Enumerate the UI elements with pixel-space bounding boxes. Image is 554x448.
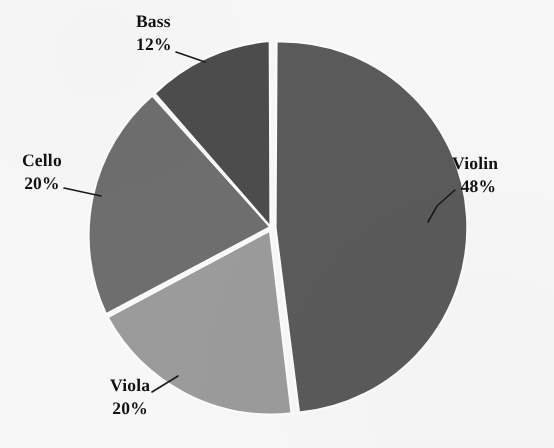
leader-line-bass (176, 52, 205, 62)
pie-label-violin-name: Violin (452, 152, 498, 175)
pie-slice-violin[interactable] (276, 41, 468, 412)
pie-label-cello-name: Cello (22, 149, 62, 172)
pie-label-viola-percent: 20% (110, 397, 150, 420)
pie-chart: Violin 48% Bass 12% Cello 20% Viola 20% (0, 0, 554, 448)
pie-label-cello: Cello 20% (22, 149, 62, 195)
pie-label-viola: Viola 20% (110, 374, 150, 420)
pie-chart-graphic (0, 0, 554, 448)
pie-label-bass: Bass 12% (136, 10, 172, 56)
pie-label-violin: Violin 48% (452, 152, 498, 198)
pie-label-bass-name: Bass (136, 10, 172, 33)
pie-label-bass-percent: 12% (136, 33, 172, 56)
pie-label-violin-percent: 48% (452, 175, 498, 198)
pie-label-cello-percent: 20% (22, 172, 62, 195)
pie-label-viola-name: Viola (110, 374, 150, 397)
